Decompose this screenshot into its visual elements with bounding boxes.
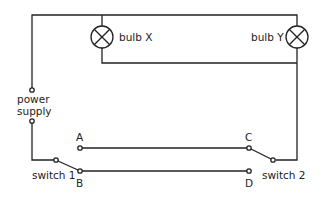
- top-wire: [32, 15, 297, 88]
- terminal-b-label: B: [76, 177, 83, 189]
- switch-2-label: switch 2: [262, 169, 306, 181]
- circuit-diagram: bulb X bulb Y power supply switch 1 swit…: [0, 0, 327, 197]
- bulb-y-label: bulb Y: [251, 31, 284, 43]
- power-label: power: [17, 93, 49, 105]
- terminal-d-label: D: [245, 177, 253, 189]
- bulb-x-icon: [91, 26, 113, 48]
- terminal-c-label: C: [245, 131, 252, 143]
- bulb-y-icon: [286, 26, 308, 48]
- bulb-x-label: bulb X: [119, 31, 152, 43]
- terminal-a-label: A: [76, 131, 83, 143]
- switch-1-label: switch 1: [32, 169, 76, 181]
- supply-label: supply: [17, 105, 52, 117]
